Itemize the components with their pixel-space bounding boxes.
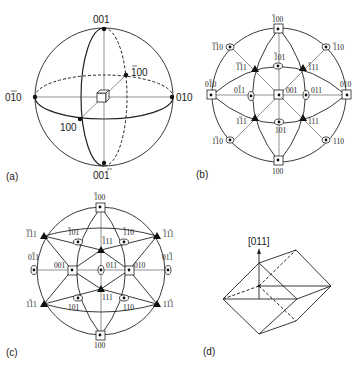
label-c-011: 011 [106,261,117,270]
label-c-010: 010 [134,261,146,270]
label-b-1-11: 111 [236,117,247,126]
label-010: 010 [176,92,193,103]
label-001: 001 [93,14,110,25]
axis-label-011: [011] [248,236,270,247]
label-b--101: 101 [274,53,286,62]
label-b--100: 100 [272,15,284,24]
label-b--111: 111 [308,63,319,72]
crystallography-figure: 001 001 010 010 100 100 (a) [0,0,361,367]
label-c-11-1: 111 [163,300,174,309]
label-b--1-10: 110 [212,43,223,52]
label-00-1: 001 [93,170,110,181]
label-c-111: 111 [102,293,113,302]
label-b-110: 110 [333,137,344,146]
arrowhead-icon [257,248,261,254]
label-b-0-11: 011 [234,86,245,95]
label-b-0-10: 010 [205,80,217,89]
panel-d-rhombohedron: [011] (d) [203,236,331,357]
label-b-1-10: 110 [212,137,223,146]
panel-c-stereogram-011: 100 100 111 111 111 111 011 011 101 110 … [6,193,174,358]
label-b-010: 010 [340,80,352,89]
label-c--100: 100 [94,193,106,202]
label-b-111: 111 [308,117,319,126]
label-c--111: 111 [102,237,113,246]
panel-label-b: (b) [196,169,208,180]
panel-a-reference-sphere: 001 001 010 010 100 100 (a) [5,14,193,182]
label-b--110: 110 [333,43,344,52]
label-c--110: 110 [123,228,134,237]
label-c-1-11: 111 [26,300,37,309]
label-b-011: 011 [311,86,322,95]
label-c--11-1: 111 [163,230,174,239]
panel-b-stereogram-001: 100 100 010 010 001 110 110 110 110 111 … [196,15,352,180]
label-b-101: 101 [275,126,287,135]
cube-icon [97,90,109,102]
label-c--101: 101 [68,228,80,237]
label-0-10: 010 [5,92,22,103]
label-c-100: 100 [94,341,106,350]
label-b-001: 001 [286,86,298,95]
label-c--1-11: 111 [26,230,37,239]
label-c-101: 101 [68,303,80,312]
panel-label-a: (a) [6,171,18,182]
label-b--1-11: 111 [236,63,247,72]
label-100: 100 [60,122,77,133]
label--100: 100 [131,67,148,78]
label-c-001: 001 [54,261,66,270]
label-c-110: 110 [123,303,134,312]
panel-label-c: (c) [6,347,18,358]
label-b-100: 100 [272,167,284,176]
panel-label-d: (d) [203,346,215,357]
label-c-0-11: 011 [28,253,39,262]
label-c-01-1: 011 [162,253,173,262]
